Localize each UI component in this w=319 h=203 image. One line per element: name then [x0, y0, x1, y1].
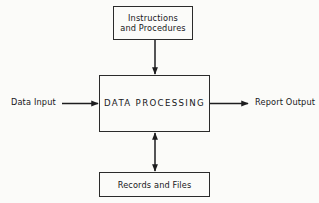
box-instructions-and-procedures[interactable]: Instructions and Procedures: [113, 6, 193, 40]
box-records-and-files[interactable]: Records and Files: [99, 172, 210, 197]
label-report-output: Report Output: [255, 97, 315, 107]
box-instructions-label: Instructions and Procedures: [120, 13, 186, 33]
label-data-input: Data Input: [11, 97, 56, 107]
box-data-processing[interactable]: DATA PROCESSING: [99, 75, 210, 132]
box-records-label: Records and Files: [118, 180, 192, 190]
box-data-processing-label: DATA PROCESSING: [104, 98, 205, 108]
data-processing-flow-diagram: Instructions and Procedures DATA PROCESS…: [0, 0, 319, 203]
